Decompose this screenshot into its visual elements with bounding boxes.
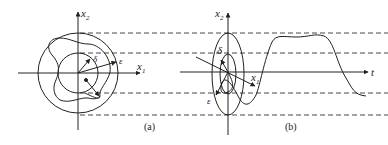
panel-b	[180, 13, 368, 135]
trajectory-b	[221, 35, 366, 104]
axis-x2-label: x2	[80, 7, 90, 22]
panel-a	[18, 12, 140, 130]
stability-diagram: x2 x1 δ ε (a) x2 t x1 δ ε (b)	[0, 0, 388, 145]
caption-b: (b)	[285, 121, 297, 133]
delta-label: δ	[93, 54, 98, 64]
axis-t-label: t	[371, 66, 375, 78]
caption-a: (a)	[144, 121, 155, 133]
dashed-bound-lines	[80, 33, 388, 115]
epsilon-label: ε	[119, 56, 123, 66]
delta-label-b: δ	[217, 44, 223, 56]
epsilon-label-b: ε	[207, 96, 211, 106]
trajectory-start-arrow	[86, 80, 99, 96]
axis-x2-label-b: x2	[214, 7, 224, 22]
